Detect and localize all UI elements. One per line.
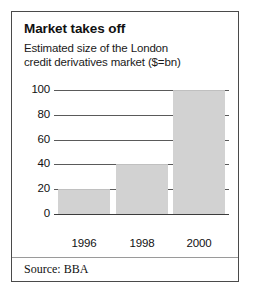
bar-1996	[58, 189, 110, 214]
x-axis: 1996 1998 2000	[12, 237, 239, 255]
chart-subtitle: Estimated size of the London credit deri…	[24, 41, 224, 69]
xtick-label-1998: 1998	[116, 237, 168, 249]
xtick-label-2000: 2000	[173, 237, 225, 249]
bar-2000	[173, 90, 225, 214]
ytick-label-40: 40	[16, 157, 50, 169]
chart-subtitle-line-2: credit derivatives market ($=bn)	[24, 55, 224, 69]
source-note: Source: BBA	[24, 262, 88, 277]
ytick-label-60: 60	[16, 133, 50, 145]
ytick-label-80: 80	[16, 108, 50, 120]
ytick-label-20: 20	[16, 182, 50, 194]
axis-baseline	[54, 214, 229, 215]
ytick-label-0: 0	[16, 207, 50, 219]
chart-figure: Market takes off Estimated size of the L…	[11, 11, 239, 282]
plot-area: 100 80 60 40 20 0	[12, 84, 239, 236]
chart-subtitle-line-1: Estimated size of the London	[24, 41, 224, 55]
xtick-label-1996: 1996	[58, 237, 110, 249]
footer-divider	[12, 257, 239, 258]
ytick-label-100: 100	[16, 83, 50, 95]
chart-title: Market takes off	[24, 21, 125, 36]
bar-1998	[116, 164, 168, 214]
